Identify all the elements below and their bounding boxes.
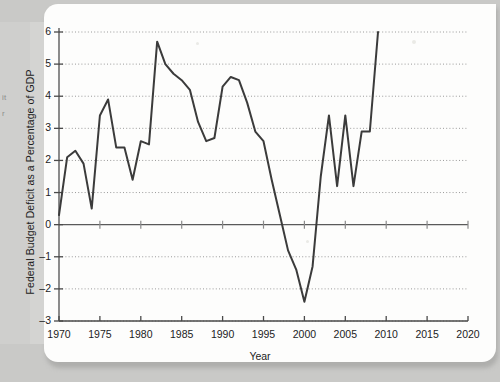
x-tick-label: 1990 bbox=[203, 328, 243, 340]
x-tick-label: 2005 bbox=[325, 328, 365, 340]
x-tick-label: 2010 bbox=[366, 328, 406, 340]
y-tick-label: 5 bbox=[27, 57, 51, 69]
x-tick-label: 1980 bbox=[121, 328, 161, 340]
screenshot-root: it r Federal Budget Deficit as a Percent… bbox=[0, 0, 500, 382]
y-tick-label: 3 bbox=[27, 121, 51, 133]
line-chart: Federal Budget Deficit as a Percentage o… bbox=[0, 0, 500, 382]
y-tick-label: 2 bbox=[27, 153, 51, 165]
y-axis-title: Federal Budget Deficit as a Percentage o… bbox=[24, 42, 36, 322]
data-series-line bbox=[59, 32, 378, 302]
y-tick-label: 0 bbox=[27, 218, 51, 230]
x-tick-label: 2020 bbox=[448, 328, 488, 340]
chart-svg bbox=[0, 0, 500, 382]
y-tick-label: –2 bbox=[27, 282, 51, 294]
x-tick-label: 2015 bbox=[407, 328, 447, 340]
y-tick-label: 4 bbox=[27, 89, 51, 101]
x-tick-label: 1985 bbox=[162, 328, 202, 340]
x-tick-label: 1970 bbox=[39, 328, 79, 340]
y-tick-label: –3 bbox=[27, 314, 51, 326]
x-tick-label: 1995 bbox=[244, 328, 284, 340]
x-tick-label: 1975 bbox=[80, 328, 120, 340]
y-tick-label: 1 bbox=[27, 186, 51, 198]
x-axis-title: Year bbox=[200, 350, 320, 362]
y-tick-label: 6 bbox=[27, 25, 51, 37]
y-tick-label: –1 bbox=[27, 250, 51, 262]
x-tick-label: 2000 bbox=[284, 328, 324, 340]
